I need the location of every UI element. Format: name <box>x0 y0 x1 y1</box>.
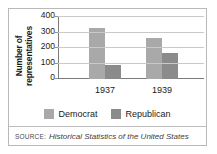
y-axis-tick-label: 300 <box>33 27 55 36</box>
bar-group <box>89 9 121 79</box>
gridline <box>58 47 204 48</box>
source-text: Historical Statistics of the United Stat… <box>49 132 189 141</box>
y-axis-tick-label: 0 <box>33 73 55 82</box>
gridline <box>58 32 204 33</box>
x-axis-tick-labels: 19371939 <box>58 85 204 99</box>
y-axis-tick-labels: 4003002001000 <box>33 9 55 105</box>
source-footer: SOURCE: Historical Statistics of the Uni… <box>9 126 206 145</box>
bar-republican-1939 <box>162 53 178 79</box>
x-axis-tick-label: 1937 <box>85 85 125 95</box>
chart-figure: Number of representatives 4003002001000 … <box>8 8 207 146</box>
legend-swatch-icon <box>111 109 121 119</box>
y-axis-tickmark <box>55 63 58 64</box>
legend-label: Democrat <box>58 109 97 119</box>
source-label: SOURCE: <box>15 133 46 140</box>
bar-republican-1937 <box>105 65 121 79</box>
y-axis-tick-label: 100 <box>33 58 55 67</box>
bar-group <box>146 9 178 79</box>
gridline <box>58 16 204 17</box>
y-axis-tickmark <box>55 47 58 48</box>
plot-area: Number of representatives 4003002001000 … <box>9 9 208 105</box>
bar-series-container <box>58 9 204 79</box>
legend-swatch-icon <box>44 109 54 119</box>
y-axis-tickmark <box>55 32 58 33</box>
y-axis-tick-label: 200 <box>33 42 55 51</box>
chart-legend: DemocratRepublican <box>9 105 206 123</box>
gridline <box>58 63 204 64</box>
y-axis-tickmark <box>55 16 58 17</box>
legend-item-democrat[interactable]: Democrat <box>44 109 97 119</box>
bar-democrat-1937 <box>89 28 105 79</box>
y-axis-tick-label: 400 <box>33 11 55 20</box>
x-axis-tick-label: 1939 <box>142 85 182 95</box>
bar-democrat-1939 <box>146 38 162 79</box>
legend-label: Republican <box>125 109 170 119</box>
legend-item-republican[interactable]: Republican <box>111 109 170 119</box>
y-axis-tickmark <box>55 78 58 79</box>
